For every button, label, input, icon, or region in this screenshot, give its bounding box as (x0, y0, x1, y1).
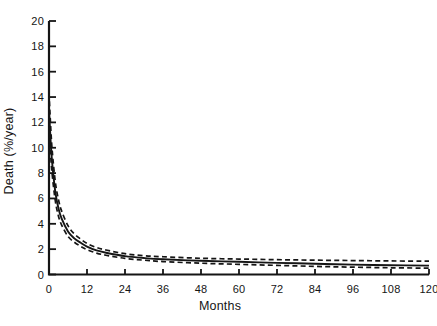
y-tick-label: 16 (31, 66, 44, 78)
y-tick-label: 6 (38, 192, 44, 204)
x-tick-label: 24 (119, 283, 132, 295)
x-tick-label: 12 (81, 283, 94, 295)
x-tick-label: 120 (420, 283, 437, 295)
lower-confidence-band-curve (49, 125, 429, 268)
y-tick-label: 0 (38, 269, 44, 281)
x-tick-label: 84 (309, 283, 322, 295)
y-tick-label: 12 (31, 116, 44, 128)
x-tick-label: 96 (347, 283, 360, 295)
x-tick-label: 72 (271, 283, 284, 295)
y-tick-label: 20 (31, 15, 44, 27)
death-hazard-curve (49, 110, 429, 266)
x-tick-label: 48 (195, 283, 208, 295)
y-tick-label: 14 (31, 91, 44, 103)
x-tick-label: 108 (382, 283, 401, 295)
upper-confidence-band-curve (49, 93, 429, 261)
y-tick-label: 2 (38, 243, 44, 255)
y-axis-title: Death (%/year) (2, 108, 16, 195)
y-tick-label: 10 (31, 142, 44, 154)
curves (49, 93, 429, 268)
x-tick-label: 0 (46, 283, 52, 295)
y-tick-label: 8 (38, 167, 44, 179)
figure-canvas: 0246810121416182001224364860728496108120… (0, 0, 437, 326)
hazard-chart: 0246810121416182001224364860728496108120… (0, 0, 437, 326)
x-tick-label: 36 (157, 283, 170, 295)
x-axis-title: Months (199, 299, 241, 313)
x-tick-label: 60 (233, 283, 246, 295)
y-tick-label: 4 (38, 218, 44, 230)
axis-frame (49, 21, 429, 275)
y-tick-label: 18 (31, 40, 44, 52)
